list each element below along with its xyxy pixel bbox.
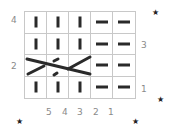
cell-knit <box>25 77 47 99</box>
cell-cable <box>47 55 69 77</box>
purl-stitch-icon <box>118 21 130 24</box>
knitting-chart <box>24 11 136 99</box>
cell-knit <box>47 34 69 56</box>
cell-cable <box>25 55 47 77</box>
purl-stitch-icon <box>118 86 130 89</box>
cell-purl <box>113 77 135 99</box>
knit-stitch-icon <box>34 38 37 49</box>
purl-stitch-icon <box>118 42 130 45</box>
cell-purl <box>91 12 113 34</box>
cell-purl <box>113 34 135 56</box>
knit-stitch-icon <box>56 82 59 93</box>
cell-knit <box>69 77 91 99</box>
cell-knit <box>47 77 69 99</box>
row-label-3: 3 <box>141 40 147 50</box>
row-label-4: 4 <box>11 15 17 25</box>
cell-purl <box>91 55 113 77</box>
cell-cable <box>69 55 91 77</box>
col-label-1: 1 <box>108 107 114 117</box>
cell-knit <box>47 12 69 34</box>
cell-purl <box>91 34 113 56</box>
star-icon: ★ <box>152 9 159 17</box>
knit-stitch-icon <box>78 17 81 28</box>
star-icon: ★ <box>132 118 139 126</box>
star-icon: ★ <box>16 118 23 126</box>
col-label-4: 4 <box>62 107 68 117</box>
purl-stitch-icon <box>96 21 108 24</box>
cell-knit <box>69 12 91 34</box>
knit-stitch-icon <box>78 82 81 93</box>
row-label-1: 1 <box>141 84 147 94</box>
knit-stitch-icon <box>56 38 59 49</box>
cell-knit <box>69 34 91 56</box>
knit-stitch-icon <box>34 82 37 93</box>
purl-stitch-icon <box>96 64 108 67</box>
row-label-2: 2 <box>11 61 17 71</box>
cell-purl <box>91 77 113 99</box>
cell-knit <box>25 12 47 34</box>
cell-purl <box>113 55 135 77</box>
col-label-3: 3 <box>77 107 83 117</box>
knit-stitch-icon <box>78 38 81 49</box>
knit-stitch-icon <box>56 17 59 28</box>
stitch-grid <box>24 11 136 99</box>
col-label-2: 2 <box>93 107 99 117</box>
col-label-5: 5 <box>46 107 52 117</box>
star-icon: ★ <box>157 96 164 104</box>
cell-purl <box>113 12 135 34</box>
cell-knit <box>25 34 47 56</box>
purl-stitch-icon <box>96 42 108 45</box>
purl-stitch-icon <box>96 86 108 89</box>
purl-stitch-icon <box>118 64 130 67</box>
knit-stitch-icon <box>34 17 37 28</box>
